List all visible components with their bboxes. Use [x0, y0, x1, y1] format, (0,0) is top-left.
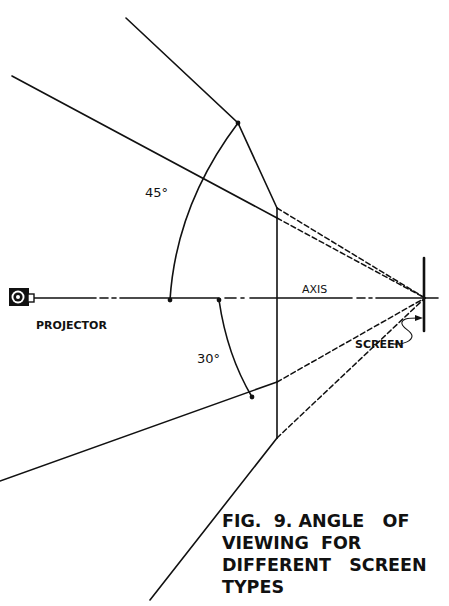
caption-line: TYPES — [222, 576, 447, 598]
screen-leader-arrowhead — [415, 315, 423, 321]
angle-arc-45 — [170, 123, 238, 300]
angle-arc-30 — [219, 300, 252, 397]
screen-label: SCREEN — [355, 338, 404, 351]
projector-icon — [9, 288, 34, 306]
angle-label-45: 45° — [145, 185, 168, 200]
dashed-sight-lines — [277, 208, 425, 438]
projector-label: PROJECTOR — [36, 319, 107, 332]
caption-line: FIG. 9. ANGLE OF — [222, 510, 447, 532]
angle-label-30: 30° — [197, 351, 220, 366]
caption-line: VIEWING FOR — [222, 532, 447, 554]
caption-line: DIFFERENT SCREEN — [222, 554, 447, 576]
upper-45-degree-line — [126, 18, 277, 208]
lower-30-degree-line — [0, 382, 277, 481]
figure-caption: FIG. 9. ANGLE OF VIEWING FOR DIFFERENT S… — [222, 510, 447, 598]
axis-label: AXIS — [302, 283, 327, 296]
